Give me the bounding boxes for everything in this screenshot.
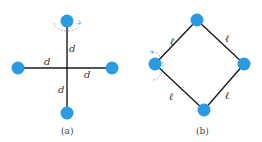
label-l-upper-right: ℓ — [225, 33, 229, 44]
label-l-upper-left: ℓ — [170, 36, 174, 47]
label-d-top: d — [69, 43, 75, 54]
mass-right — [106, 62, 119, 75]
caption-a: (a) — [61, 126, 73, 136]
label-d-right: d — [84, 69, 90, 80]
diagram-canvas: d d d d (a) ℓ ℓ ℓ ℓ (b) — [0, 0, 262, 142]
mass-left — [12, 62, 25, 75]
mass-top — [61, 15, 74, 28]
mass-top — [191, 14, 204, 27]
label-l-lower-left: ℓ — [169, 91, 173, 102]
figure-b: ℓ ℓ ℓ ℓ (b) — [149, 14, 251, 137]
mass-bottom — [198, 104, 211, 117]
caption-b: (b) — [196, 126, 209, 136]
mass-bottom — [61, 107, 74, 120]
label-l-lower-right: ℓ — [225, 90, 229, 101]
label-d-bottom: d — [58, 84, 64, 95]
arrow-head-icon — [77, 20, 81, 24]
arrow-head-icon — [150, 51, 153, 54]
mass-right — [238, 58, 251, 71]
label-d-left: d — [44, 56, 50, 67]
figure-a: d d d d (a) — [12, 15, 119, 137]
mass-left — [149, 58, 162, 71]
